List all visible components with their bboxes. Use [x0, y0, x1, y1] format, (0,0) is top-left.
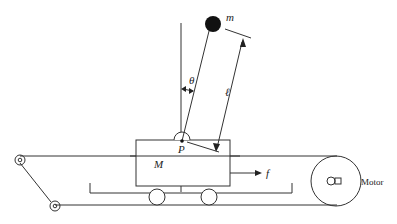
motor-key	[335, 178, 341, 184]
label-force: f	[266, 167, 271, 179]
belt-diagonal	[20, 163, 51, 202]
label-m: m	[226, 11, 234, 23]
label-cart-mass: M	[153, 158, 164, 170]
cart-wheel-right	[201, 189, 217, 205]
cart-wheel-left	[149, 189, 165, 205]
diagram-canvas: m θ P ℓ M f Motor	[0, 0, 397, 224]
label-motor: Motor	[361, 177, 384, 187]
force-arrowhead	[255, 170, 262, 176]
angle-arrowhead-left	[181, 86, 186, 92]
label-length: ℓ	[225, 86, 230, 98]
idler-pulley-top-hub	[18, 158, 22, 162]
angle-arrowhead-right	[189, 88, 194, 94]
cart-pole-diagram: m θ P ℓ M f Motor	[0, 0, 397, 224]
label-pivot: P	[177, 143, 185, 155]
length-arrowhead-top	[240, 38, 246, 47]
pivot-mount	[174, 132, 190, 140]
pendulum-bob	[205, 16, 221, 32]
label-theta: θ	[189, 74, 195, 86]
idler-pulley-bottom	[50, 201, 60, 211]
motor-shaft	[327, 177, 335, 185]
pendulum-rod	[182, 27, 210, 141]
motor-pulley	[311, 156, 361, 206]
length-tick-top	[225, 29, 251, 38]
